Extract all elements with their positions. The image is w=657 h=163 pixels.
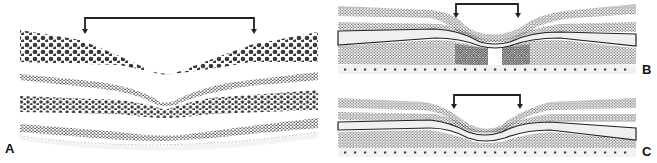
panel-a-diagram	[0, 0, 330, 163]
panel-a: A	[0, 0, 330, 163]
panel-label-c: C	[642, 144, 651, 159]
bracket	[454, 95, 520, 107]
bracket	[85, 18, 254, 32]
panel-c: C	[330, 82, 657, 163]
panel-label-a: A	[5, 141, 14, 156]
panel-b: B	[330, 0, 657, 82]
bracket	[456, 4, 518, 16]
panel-label-b: B	[642, 62, 651, 77]
panel-c-diagram	[330, 82, 657, 163]
panel-b-diagram	[330, 0, 657, 82]
